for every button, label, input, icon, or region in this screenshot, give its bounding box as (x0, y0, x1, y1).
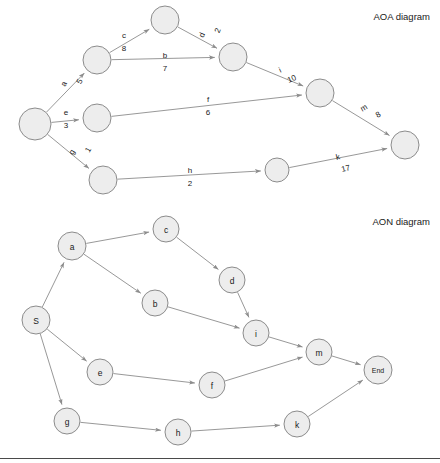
aoa-node-circle-n3 (151, 6, 179, 34)
aoa-activity-name-i: i (277, 65, 282, 74)
aoa-activity-name-k: k (335, 152, 342, 162)
aon-node-h[interactable]: h (165, 419, 191, 445)
aon-node-label-i: i (255, 329, 257, 339)
aon-edge-m-to-End (332, 356, 361, 365)
aoa-node-circle-n8 (89, 166, 117, 194)
aoa-edge-d (178, 27, 217, 48)
aoa-activity-name-e: e (64, 108, 69, 117)
aoa-node-n3[interactable] (151, 6, 179, 34)
aon-edge-i-to-m (269, 337, 303, 347)
aoa-activity-duration-e: 3 (64, 121, 69, 130)
aon-diagram-title: AON diagram (372, 216, 430, 227)
aon-node-label-S: S (33, 316, 39, 326)
aon-edge-h-to-k (191, 425, 279, 431)
aon-node-group: SacbdimEndefghk (22, 216, 392, 445)
aoa-edge-label-a: a5 (59, 71, 85, 93)
aon-edge-S-to-e (47, 329, 86, 361)
aon-node-label-d: d (230, 276, 235, 286)
aoa-activity-name-g: g (67, 148, 77, 156)
aon-node-k[interactable]: k (284, 411, 310, 437)
aon-node-label-h: h (176, 428, 181, 438)
aoa-node-circle-n5 (306, 79, 334, 107)
aoa-activity-name-b: b (163, 51, 168, 60)
aoa-node-n5[interactable] (306, 79, 334, 107)
aon-node-c[interactable]: c (153, 216, 179, 242)
aon-edge-c-to-d (177, 237, 219, 269)
aoa-node-circle-n7 (391, 131, 419, 159)
aon-node-a[interactable]: a (58, 232, 86, 260)
aoa-edge-label-c: c8 (122, 31, 127, 53)
aon-edge-b-to-i (168, 307, 240, 328)
aoa-activity-name-a: a (59, 80, 69, 88)
aoa-activity-duration-m: 8 (374, 109, 383, 119)
aon-node-label-a: a (70, 242, 75, 252)
aon-node-label-e: e (98, 368, 103, 378)
aon-edge-k-to-End (308, 380, 363, 416)
aoa-node-circle-n2 (83, 46, 111, 74)
aon-node-g[interactable]: g (54, 408, 80, 434)
aon-node-S[interactable]: S (22, 306, 50, 334)
aon-node-End[interactable]: End (364, 356, 392, 384)
aon-edge-e-to-f (113, 374, 195, 383)
aoa-edge-c (110, 29, 150, 52)
aoa-activity-duration-f: 6 (206, 108, 211, 117)
aon-node-label-b: b (153, 299, 158, 309)
aon-edge-S-to-g (40, 334, 62, 405)
aoa-node-circle-n4 (219, 43, 247, 71)
aoa-node-n9[interactable] (265, 158, 289, 182)
aoa-node-n7[interactable] (391, 131, 419, 159)
aoa-activity-duration-g: 1 (83, 145, 93, 154)
aoa-node-n1[interactable] (19, 108, 51, 140)
aoa-edge-label-g: g1 (67, 139, 94, 163)
aoa-edge-label-e: e3 (64, 108, 69, 130)
aon-node-label-g: g (65, 417, 70, 427)
aoa-node-n2[interactable] (83, 46, 111, 74)
aoa-activity-duration-k: 17 (340, 163, 351, 174)
aoa-diagram-title: AOA diagram (374, 11, 431, 22)
aoa-node-circle-n6 (83, 104, 111, 132)
diagram-page: a5e3g1c8b7d2i10f6m8h2k17 AOA diagram Sac… (0, 0, 440, 463)
aoa-node-n6[interactable] (83, 104, 111, 132)
aon-edge-f-to-m (225, 357, 303, 381)
aon-node-m[interactable]: m (306, 339, 332, 365)
aoa-node-n4[interactable] (219, 43, 247, 71)
aoa-edge-label-h: h2 (188, 166, 193, 188)
aoa-activity-duration-h: 2 (188, 179, 193, 188)
aoa-activity-name-c: c (122, 31, 126, 40)
aon-edge-g-to-h (80, 422, 160, 430)
network-diagrams-canvas: a5e3g1c8b7d2i10f6m8h2k17 AOA diagram Sac… (0, 0, 440, 463)
aon-node-e[interactable]: e (87, 359, 113, 385)
aoa-activity-name-h: h (188, 166, 192, 175)
aon-node-label-m: m (315, 348, 322, 358)
aon-edge-a-to-b (84, 254, 141, 293)
aoa-node-n8[interactable] (89, 166, 117, 194)
aon-edge-group (40, 232, 363, 431)
aoa-node-circle-n1 (19, 108, 51, 140)
aon-node-d[interactable]: d (219, 267, 245, 293)
aoa-activity-name-m: m (359, 102, 370, 113)
aoa-edge-label-d: d2 (197, 21, 223, 43)
aon-node-label-End: End (372, 367, 385, 374)
aon-node-b[interactable]: b (142, 290, 168, 316)
aon-edge-d-to-i (238, 292, 249, 317)
aoa-activity-duration-d: 2 (213, 26, 223, 34)
aoa-edge-label-b: b7 (163, 51, 168, 73)
aoa-activity-name-d: d (197, 31, 207, 39)
aon-edge-a-to-c (86, 232, 149, 243)
aon-node-f[interactable]: f (199, 372, 225, 398)
aoa-edge-label-k: k17 (335, 150, 352, 174)
aon-edge-S-to-a (42, 262, 64, 307)
aoa-node-circle-n9 (265, 158, 289, 182)
aoa-activity-duration-b: 7 (163, 64, 168, 73)
aoa-edge-label-m: m8 (359, 98, 383, 125)
aoa-activity-duration-c: 8 (122, 44, 127, 53)
aoa-activity-name-f: f (207, 95, 210, 104)
aon-node-i[interactable]: i (243, 320, 269, 346)
